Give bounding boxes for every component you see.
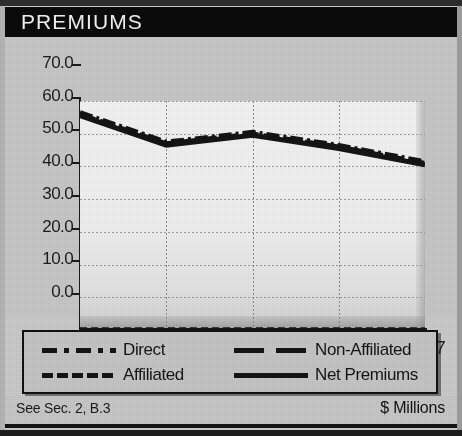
y-axis-tick-label: 0.0 [27, 282, 73, 302]
y-axis-tick [72, 64, 81, 66]
y-axis-tick [72, 97, 81, 99]
y-axis-tick-label: 40.0 [27, 151, 73, 171]
scan-edge-top [0, 0, 462, 6]
page-title: PREMIUMS [21, 10, 143, 34]
legend-item-affiliated[interactable]: Affiliated [42, 363, 184, 387]
legend-item-non-affiliated[interactable]: Non-Affiliated [234, 338, 411, 362]
plot-area [80, 101, 425, 330]
legend-label-direct: Direct [123, 340, 165, 360]
plot-inner [80, 101, 425, 330]
y-axis-tick-label: 50.0 [27, 118, 73, 138]
footer-bar: See Sec. 2, B.3 $ Millions [5, 396, 457, 424]
y-axis-tick-label: 10.0 [27, 249, 73, 269]
chart-legend: Direct Non-Affiliated Affiliated Net Pre… [22, 330, 438, 394]
chart-panel: 70.060.050.040.030.020.010.00.0 20032005… [5, 37, 457, 317]
frame-edge-right [457, 6, 462, 430]
series-lines [80, 101, 425, 330]
legend-item-direct[interactable]: Direct [42, 338, 165, 362]
series-line-net-premiums [80, 116, 425, 165]
legend-label-affiliated: Affiliated [123, 365, 184, 385]
y-axis-tick-label: 30.0 [27, 184, 73, 204]
legend-swatch-affiliated [42, 373, 116, 378]
scan-edge-bottom [0, 430, 462, 436]
legend-label-net-premiums: Net Premiums [315, 365, 418, 385]
y-axis-labels: 70.060.050.040.030.020.010.00.0 [21, 37, 73, 317]
legend-swatch-net-premiums [234, 373, 308, 378]
y-axis-tick-label: 70.0 [27, 53, 73, 73]
footer-units: $ Millions [380, 399, 445, 417]
footer-rule [5, 424, 457, 428]
footer-reference: See Sec. 2, B.3 [16, 400, 110, 416]
y-axis-tick-label: 60.0 [27, 86, 73, 106]
title-bar: PREMIUMS [5, 7, 457, 37]
legend-item-net-premiums[interactable]: Net Premiums [234, 363, 418, 387]
legend-swatch-direct [42, 348, 116, 353]
chart-screenshot: PREMIUMS 70.060.050.040.030.020.010.00.0… [0, 0, 462, 436]
legend-swatch-non-affiliated [234, 348, 308, 353]
legend-label-non-affiliated: Non-Affiliated [315, 340, 411, 360]
y-axis-tick-label: 20.0 [27, 217, 73, 237]
